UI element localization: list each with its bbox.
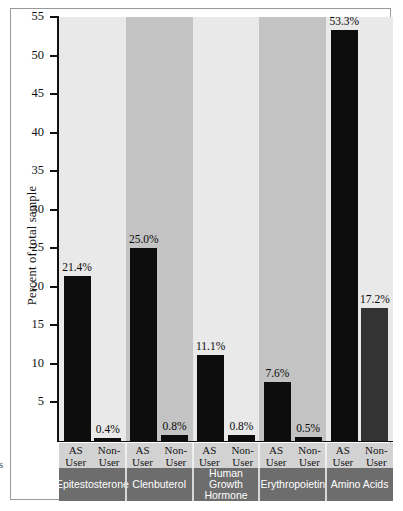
subgroup-band-divider: [325, 443, 327, 468]
y-tick-mark: [50, 209, 59, 211]
y-tick-label: 30: [14, 202, 44, 217]
subgroup-band-divider: [258, 443, 260, 468]
subgroup-label-line1: AS: [259, 444, 292, 456]
y-tick-mark: [50, 401, 59, 403]
y-tick-label: 50: [14, 48, 44, 63]
bar-as-user: [64, 276, 91, 441]
y-tick-label: 40: [14, 125, 44, 140]
subgroup-label: ASUser: [59, 443, 92, 468]
subgroup-label-line2: User: [259, 456, 292, 468]
subgroup-label-line2: User: [326, 456, 359, 468]
bar-as-user: [130, 248, 157, 441]
bar-non-user: [228, 435, 255, 441]
plot-area: 21.4%0.4%25.0%0.8%11.1%0.8%7.6%0.5%53.3%…: [59, 17, 393, 441]
subgroup-label-line1: Non-: [360, 444, 393, 456]
y-tick-label: 15: [14, 317, 44, 332]
y-tick-label: 5: [14, 394, 44, 409]
y-tick-label: 25: [14, 240, 44, 255]
bar-value-label: 21.4%: [59, 261, 103, 273]
category-band-divider: [192, 468, 194, 501]
y-tick-mark: [50, 324, 59, 326]
bar-value-label: 7.6%: [251, 367, 303, 379]
y-tick-label: 55: [14, 9, 44, 24]
bar-value-label: 0.8%: [215, 420, 267, 432]
subgroup-label: Non-User: [92, 443, 125, 468]
subgroup-label-line1: Non-: [159, 444, 192, 456]
subgroup-label: Non-User: [226, 443, 259, 468]
subgroup-label-line2: User: [360, 456, 393, 468]
subgroup-label: Non-User: [159, 443, 192, 468]
bar-value-label: 0.4%: [82, 423, 134, 435]
bar-non-user: [161, 435, 188, 441]
subgroup-label-line1: Non-: [226, 444, 259, 456]
subgroup-label-line2: User: [293, 456, 326, 468]
y-tick-label: 20: [14, 279, 44, 294]
y-tick-mark: [50, 132, 59, 134]
y-tick-mark: [50, 247, 59, 249]
category-label: Clenbuterol: [126, 468, 193, 501]
subgroup-label-line1: Non-: [92, 444, 125, 456]
subgroup-label: Non-User: [360, 443, 393, 468]
bar-value-label: 0.5%: [282, 422, 334, 434]
subgroup-label: ASUser: [193, 443, 226, 468]
subgroup-band-divider: [192, 443, 194, 468]
bar-non-user: [295, 437, 322, 441]
subgroup-label-line1: AS: [126, 444, 159, 456]
subgroup-label-line1: Non-: [293, 444, 326, 456]
category-label: Epitestosterone: [59, 468, 126, 501]
subgroup-label: ASUser: [126, 443, 159, 468]
category-band-divider: [325, 468, 327, 501]
y-tick-mark: [50, 55, 59, 57]
bar-non-user: [361, 308, 388, 441]
category-label: Amino Acids: [326, 468, 393, 501]
subgroup-label: Non-User: [293, 443, 326, 468]
subgroup-label-line2: User: [126, 456, 159, 468]
y-tick-mark: [50, 286, 59, 288]
category-label-band: EpitestosteroneClenbuterolHuman Growth H…: [59, 468, 393, 501]
subgroup-label-band: ASUserNon-UserASUserNon-UserASUserNon-Us…: [59, 443, 393, 468]
category-label: Erythropoietin: [259, 468, 326, 501]
y-tick-mark: [50, 16, 59, 18]
y-tick-mark: [50, 93, 59, 95]
y-tick-label: 45: [14, 86, 44, 101]
subgroup-label-line2: User: [159, 456, 192, 468]
subgroup-label: ASUser: [326, 443, 359, 468]
bar-as-user: [331, 30, 358, 441]
subgroup-label-line1: AS: [326, 444, 359, 456]
subgroup-label-line1: AS: [193, 444, 226, 456]
subgroup-label-line2: User: [92, 456, 125, 468]
bar-value-label: 25.0%: [118, 233, 170, 245]
grouped-bar-chart: Percent of total sample 5550454035302520…: [0, 0, 403, 511]
category-band-divider: [125, 468, 127, 501]
subgroup-label: ASUser: [259, 443, 292, 468]
y-tick-mark: [50, 170, 59, 172]
subgroup-label-line1: AS: [59, 444, 92, 456]
bar-value-label: 11.1%: [185, 340, 237, 352]
bar-non-user: [94, 438, 121, 441]
subgroup-band-divider: [125, 443, 127, 468]
y-tick-mark: [50, 363, 59, 365]
category-band-divider: [258, 468, 260, 501]
bar-value-label: 0.8%: [149, 420, 201, 432]
subgroup-label-line2: User: [59, 456, 92, 468]
y-tick-label: 10: [14, 356, 44, 371]
bar-value-label: 17.2%: [349, 293, 393, 305]
y-tick-label: 35: [14, 163, 44, 178]
category-label: Human Growth Hormone: [193, 468, 260, 501]
bar-value-label: 53.3%: [318, 17, 370, 27]
